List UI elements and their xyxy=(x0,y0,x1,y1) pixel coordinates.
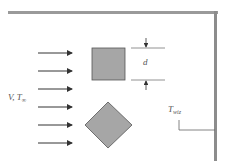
wall-temp-label: Twiz xyxy=(168,104,181,115)
flow-label: V, T∞ xyxy=(8,92,26,103)
diamond-cylinder xyxy=(85,102,132,148)
wall-temp-leader xyxy=(179,120,215,130)
dimension-marker xyxy=(131,38,165,90)
square-cylinder xyxy=(92,48,125,80)
flow-arrows xyxy=(38,53,72,143)
dimension-label: d xyxy=(143,57,148,67)
diagram-canvas xyxy=(0,0,231,166)
